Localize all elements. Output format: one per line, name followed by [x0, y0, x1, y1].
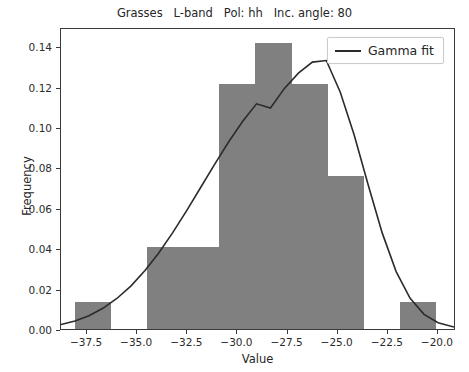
x-tick-mark [86, 330, 87, 334]
x-tick-label: −37.5 [70, 336, 102, 348]
y-tick-mark [56, 290, 60, 291]
x-tick-label: −25.0 [321, 336, 353, 348]
x-tick-mark [387, 330, 388, 334]
gamma-fit-path [61, 61, 454, 327]
legend-line-icon [335, 50, 361, 52]
x-tick-label: −30.0 [220, 336, 252, 348]
y-tick-mark [56, 168, 60, 169]
y-tick-mark [56, 47, 60, 48]
y-tick-label: 0.02 [29, 284, 52, 296]
y-tick-label: 0.00 [29, 324, 52, 336]
histogram-figure: Grasses L-band Pol: hh Inc. angle: 80 Ga… [0, 0, 469, 372]
gamma-fit-curve [61, 29, 454, 329]
y-tick-mark [56, 209, 60, 210]
y-tick-label: 0.14 [29, 41, 52, 53]
y-tick-mark [56, 128, 60, 129]
x-tick-mark [236, 330, 237, 334]
x-tick-label: −27.5 [270, 336, 302, 348]
y-tick-label: 0.12 [29, 82, 52, 94]
y-tick-mark [56, 330, 60, 331]
x-tick-mark [337, 330, 338, 334]
plot-area: Gamma fit [60, 28, 455, 330]
y-tick-mark [56, 249, 60, 250]
legend[interactable]: Gamma fit [327, 37, 444, 64]
x-axis-label: Value [60, 352, 455, 366]
x-tick-mark [287, 330, 288, 334]
x-tick-label: −20.0 [421, 336, 453, 348]
legend-item-label: Gamma fit [368, 43, 434, 58]
x-tick-mark [437, 330, 438, 334]
y-tick-mark [56, 88, 60, 89]
x-tick-label: −22.5 [371, 336, 403, 348]
x-tick-mark [136, 330, 137, 334]
x-tick-label: −35.0 [120, 336, 152, 348]
x-tick-mark [186, 330, 187, 334]
y-axis-label: Frequency [20, 106, 34, 266]
chart-title: Grasses L-band Pol: hh Inc. angle: 80 [0, 6, 469, 20]
x-tick-label: −32.5 [170, 336, 202, 348]
